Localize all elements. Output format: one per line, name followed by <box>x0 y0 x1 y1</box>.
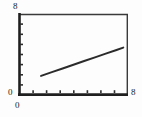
x-axis-max-label: 8 <box>131 88 136 97</box>
chart-figure: 8 0 0 8 <box>0 0 142 117</box>
y-axis-min-label: 0 <box>8 88 13 97</box>
x-axis-min-label: 0 <box>15 101 20 110</box>
y-axis-max-label: 8 <box>13 2 18 11</box>
line-chart-plot <box>0 0 142 117</box>
plot-background <box>19 14 128 95</box>
